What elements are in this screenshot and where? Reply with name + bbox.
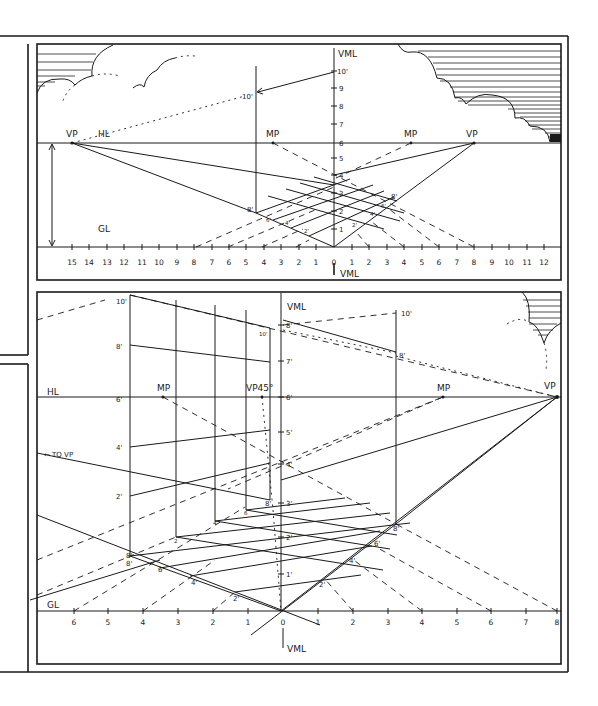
svg-text:0: 0 — [332, 258, 337, 267]
sky-hatching-right — [418, 51, 561, 142]
vml-bottom-label: VML — [340, 269, 359, 279]
svg-text:1': 1' — [286, 571, 292, 579]
svg-text:8': 8' — [399, 352, 405, 360]
mp-left-label: MP — [266, 129, 280, 139]
svg-text:5: 5 — [455, 618, 460, 627]
svg-text:HL: HL — [47, 387, 59, 397]
svg-text:9: 9 — [490, 258, 495, 267]
svg-text:8': 8' — [265, 500, 271, 508]
hl-label: HL — [98, 129, 110, 139]
svg-text:14: 14 — [84, 258, 94, 267]
svg-text:GL: GL — [47, 600, 59, 610]
svg-text:5: 5 — [244, 258, 249, 267]
svg-text:7: 7 — [524, 618, 529, 627]
svg-text:15: 15 — [67, 258, 77, 267]
top-panel: VML VML 1 2 3 4 5 6 7 8 9 10' VP HL VP — [37, 44, 561, 280]
svg-text:4: 4 — [402, 258, 407, 267]
svg-text:1: 1 — [350, 258, 355, 267]
svg-text:10': 10' — [242, 93, 253, 101]
svg-text:6': 6' — [158, 566, 164, 574]
svg-text:2: 2 — [174, 538, 178, 544]
svg-text:6: 6 — [489, 618, 494, 627]
svg-text:9: 9 — [175, 258, 180, 267]
svg-text:2: 2 — [367, 258, 372, 267]
svg-text:2: 2 — [211, 618, 216, 627]
svg-text:4: 4 — [420, 618, 425, 627]
svg-text:3: 3 — [386, 618, 391, 627]
vp-right-label: VP — [466, 129, 478, 139]
svg-text:6': 6' — [374, 540, 380, 548]
outer-frame — [0, 36, 568, 672]
svg-text:3: 3 — [176, 618, 181, 627]
svg-text:9: 9 — [339, 85, 343, 93]
svg-text:12: 12 — [119, 258, 129, 267]
svg-text:3: 3 — [279, 258, 284, 267]
floor-grid-bottom — [30, 498, 410, 635]
svg-text:1: 1 — [314, 258, 319, 267]
svg-text:8': 8' — [286, 322, 292, 330]
cloud-left — [37, 45, 113, 93]
cloud-right — [398, 44, 550, 142]
svg-text:4: 4 — [262, 258, 267, 267]
svg-text:6: 6 — [437, 258, 442, 267]
svg-text:5: 5 — [106, 618, 111, 627]
svg-text:8: 8 — [472, 258, 477, 267]
left-side-panel-top — [0, 44, 28, 355]
svg-text:VML: VML — [287, 644, 306, 654]
svg-text:8: 8 — [555, 618, 560, 627]
svg-text:5': 5' — [286, 429, 292, 437]
svg-text:11: 11 — [137, 258, 147, 267]
vml-top-label: VML — [338, 49, 357, 59]
left-side-panel-bottom — [0, 364, 28, 672]
svg-text:2': 2' — [304, 228, 309, 234]
svg-text:8': 8' — [247, 206, 253, 214]
svg-text:4': 4' — [349, 557, 355, 565]
svg-text:10: 10 — [504, 258, 514, 267]
svg-text:8: 8 — [339, 103, 343, 111]
svg-text:VML: VML — [287, 302, 306, 312]
svg-text:6': 6' — [286, 394, 292, 402]
svg-text:VP45°: VP45° — [246, 383, 274, 393]
svg-text:8': 8' — [116, 343, 122, 351]
svg-text:10': 10' — [337, 68, 348, 76]
svg-text:4: 4 — [141, 618, 146, 627]
svg-text:4': 4' — [191, 579, 197, 587]
svg-text:MP: MP — [437, 383, 451, 393]
svg-text:7: 7 — [455, 258, 460, 267]
svg-text:4': 4' — [370, 211, 375, 217]
svg-text:10': 10' — [401, 310, 412, 318]
svg-text:8': 8' — [393, 525, 399, 533]
svg-text:7: 7 — [339, 121, 343, 129]
svg-text:12: 12 — [539, 258, 549, 267]
svg-text:11: 11 — [522, 258, 532, 267]
svg-text:2': 2' — [116, 493, 122, 501]
svg-text:6': 6' — [266, 217, 271, 223]
svg-text:2': 2' — [233, 595, 239, 603]
gl-label: GL — [98, 224, 110, 234]
svg-text:3: 3 — [385, 258, 390, 267]
svg-text:MP: MP — [157, 383, 171, 393]
svg-text:1: 1 — [316, 618, 321, 627]
svg-text:0: 0 — [281, 618, 286, 627]
measuring-lines — [196, 143, 474, 247]
perspective-diagram: VML VML 1 2 3 4 5 6 7 8 9 10' VP HL VP — [0, 0, 598, 706]
svg-text:4': 4' — [286, 461, 292, 469]
svg-text:VP: VP — [544, 381, 556, 391]
svg-text:5: 5 — [420, 258, 425, 267]
ground-scale-bottom-labels: 6 5 4 3 2 1 0 1 2 3 4 5 6 7 8 — [72, 618, 560, 627]
svg-text:10': 10' — [116, 298, 127, 306]
svg-text:10: 10 — [154, 258, 164, 267]
svg-text:7': 7' — [286, 358, 292, 366]
svg-text:1: 1 — [246, 618, 251, 627]
svg-text:6': 6' — [381, 203, 386, 209]
svg-text:10': 10' — [259, 331, 268, 337]
svg-text:6: 6 — [72, 618, 77, 627]
bottom-panel: HL GL VML VML 8' 7' 6' 5' 4' 3' 2' 1' MP — [30, 292, 561, 664]
svg-text:6: 6 — [227, 258, 232, 267]
svg-text:2: 2 — [351, 618, 356, 627]
svg-text:4': 4' — [116, 444, 122, 452]
svg-text:7: 7 — [210, 258, 215, 267]
svg-text:6': 6' — [116, 396, 122, 404]
svg-text:2': 2' — [352, 222, 357, 228]
ground-scale-labels: 15 14 13 12 11 10 9 8 7 6 5 4 3 2 1 0 1 … — [67, 258, 549, 267]
